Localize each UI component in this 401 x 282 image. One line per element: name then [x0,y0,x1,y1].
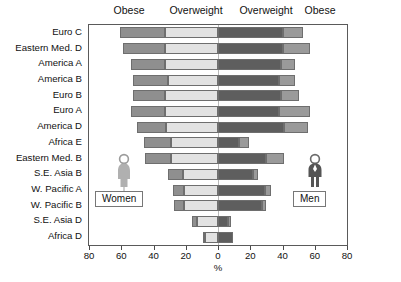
bar-segment-men-overweight [218,169,253,180]
bar-segment-men-obese [228,216,231,227]
axis-tick-label: 60 [303,250,327,261]
axis-tick-label: 80 [335,250,359,261]
value-axis: 80604020020406080 [88,246,348,260]
category-label: S.E. Asia B [34,167,82,178]
bar-segment-men-obese [265,185,271,196]
bar-segment-men-overweight [218,216,228,227]
legend-men: Men [293,191,326,207]
bar-segment-women-overweight [165,59,218,70]
category-label: Euro C [52,26,82,37]
bar-segment-men-overweight [218,232,233,243]
header-women-obese: Obese [94,4,164,16]
bar-segment-women-overweight [165,43,218,54]
category-label: America D [37,120,82,131]
bar-segment-men-obese [239,137,249,148]
header-men-overweight: Overweight [230,4,302,16]
category-label: Eastern Med. D [15,42,82,53]
bar-segment-men-overweight [218,153,266,164]
chart-top-headers: Obese Overweight Overweight Obese [88,4,348,22]
bars-layer [89,25,347,245]
bar-segment-men-overweight [218,106,279,117]
bar-segment-women-obese [144,137,171,148]
bar-segment-men-obese [266,153,284,164]
bar-segment-men-obese [281,59,296,70]
bar-segment-men-overweight [218,27,283,38]
population-pyramid-chart: Obese Overweight Overweight Obese Euro C… [0,0,401,282]
bar-segment-women-overweight [165,27,218,38]
legend-women: Women [95,191,143,207]
bar-segment-women-overweight [184,185,218,196]
axis-tick-label: 20 [174,250,198,261]
bar-segment-women-obese [123,43,165,54]
bar-segment-women-obese [137,122,166,133]
plot-area: Women Men [88,24,348,246]
bar-segment-women-obese [131,59,165,70]
bar-segment-men-obese [284,122,308,133]
bar-segment-women-obese [131,106,165,117]
bar-segment-women-overweight [183,169,218,180]
bar-segment-women-obese [133,90,165,101]
header-men-obese: Obese [296,4,344,16]
bar-segment-women-overweight [171,153,218,164]
bar-segment-men-overweight [218,185,265,196]
bar-segment-women-obese [168,169,183,180]
bar-segment-men-overweight [218,122,284,133]
bar-segment-men-overweight [218,43,283,54]
bar-segment-men-obese [283,27,304,38]
bar-segment-women-overweight [184,200,218,211]
bar-segment-men-obese [283,43,310,54]
category-label: Euro B [53,89,82,100]
bar-segment-women-overweight [165,90,218,101]
axis-tick-label: 40 [142,250,166,261]
bar-segment-women-obese [133,75,168,86]
bar-segment-women-obese [174,200,184,211]
bar-segment-men-obese [279,106,310,117]
bar-segment-men-overweight [218,75,279,86]
bar-segment-men-overweight [218,59,281,70]
bar-segment-women-overweight [205,232,218,243]
category-label: America B [38,73,82,84]
category-label: Eastern Med. B [16,152,82,163]
male-figure-icon [303,153,327,193]
axis-title-percent: % [88,262,348,273]
axis-tick-label: 60 [109,250,133,261]
category-label: Euro A [53,104,82,115]
bar-segment-women-overweight [165,106,218,117]
category-label: Africa E [48,136,82,147]
bar-segment-men-overweight [218,90,281,101]
category-label: W. Pacific B [31,199,82,210]
category-label: W. Pacific A [31,183,82,194]
bar-segment-men-obese [253,169,258,180]
bar-segment-men-obese [279,75,295,86]
header-women-overweight: Overweight [160,4,232,16]
category-label: S.E. Asia D [33,214,82,225]
bar-segment-women-obese [120,27,165,38]
category-label: America A [38,57,82,68]
category-label: Africa D [48,230,82,241]
axis-tick-label: 80 [77,250,101,261]
axis-tick-label: 40 [271,250,295,261]
bar-segment-men-obese [281,90,299,101]
bar-segment-women-overweight [166,122,218,133]
category-axis-labels: Euro CEastern Med. DAmerica AAmerica BEu… [0,24,85,246]
bar-segment-women-overweight [171,137,218,148]
bar-segment-men-obese [262,200,267,211]
bar-segment-women-overweight [197,216,218,227]
bar-segment-women-obese [173,185,184,196]
bar-segment-men-overweight [218,200,262,211]
bar-segment-women-overweight [168,75,218,86]
bar-segment-men-overweight [218,137,239,148]
axis-tick-label: 20 [238,250,262,261]
bar-segment-women-obese [145,153,171,164]
female-figure-icon [113,153,135,193]
axis-tick-label: 0 [206,250,230,261]
